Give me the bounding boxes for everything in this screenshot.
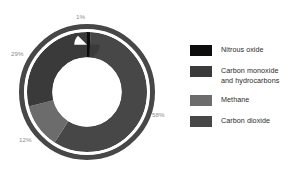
legend-swatch-nitrous-oxide bbox=[190, 45, 212, 56]
legend-item-carbon-monoxide[interactable]: Carbon monoxide and hydrocarbons bbox=[190, 66, 298, 85]
pct-label-carbon-dioxide: 58% bbox=[152, 112, 165, 118]
legend-swatch-methane bbox=[190, 95, 212, 106]
chart-figure: 1% 29% 12% 58% Nitrous oxide Carbon mono… bbox=[0, 0, 299, 172]
legend-label-carbon-dioxide: Carbon dioxide bbox=[221, 116, 270, 126]
legend-item-methane[interactable]: Methane bbox=[190, 95, 298, 106]
legend-label-line2: and hydrocarbons bbox=[221, 76, 279, 86]
legend-label-line1: Nitrous oxide bbox=[221, 45, 264, 55]
pct-label-methane: 12% bbox=[19, 137, 32, 143]
legend-item-carbon-dioxide[interactable]: Carbon dioxide bbox=[190, 116, 298, 127]
pct-label-nitrous-oxide: 1% bbox=[76, 14, 85, 20]
legend-label-nitrous-oxide: Nitrous oxide bbox=[221, 45, 264, 55]
legend-label-line1: Carbon monoxide bbox=[221, 66, 279, 76]
legend-label-methane: Methane bbox=[221, 95, 249, 105]
legend-item-nitrous-oxide[interactable]: Nitrous oxide bbox=[190, 45, 298, 56]
legend-label-line1: Methane bbox=[221, 95, 249, 105]
legend-swatch-carbon-monoxide bbox=[190, 66, 212, 77]
legend-label-carbon-monoxide: Carbon monoxide and hydrocarbons bbox=[221, 66, 279, 85]
chart-legend: Nitrous oxide Carbon monoxide and hydroc… bbox=[190, 45, 298, 127]
legend-label-line1: Carbon dioxide bbox=[221, 116, 270, 126]
legend-swatch-carbon-dioxide bbox=[190, 116, 212, 127]
pct-label-carbon-monoxide: 29% bbox=[11, 51, 24, 57]
donut-chart bbox=[17, 22, 157, 162]
donut-hole bbox=[54, 59, 119, 124]
donut-svg bbox=[17, 22, 157, 162]
